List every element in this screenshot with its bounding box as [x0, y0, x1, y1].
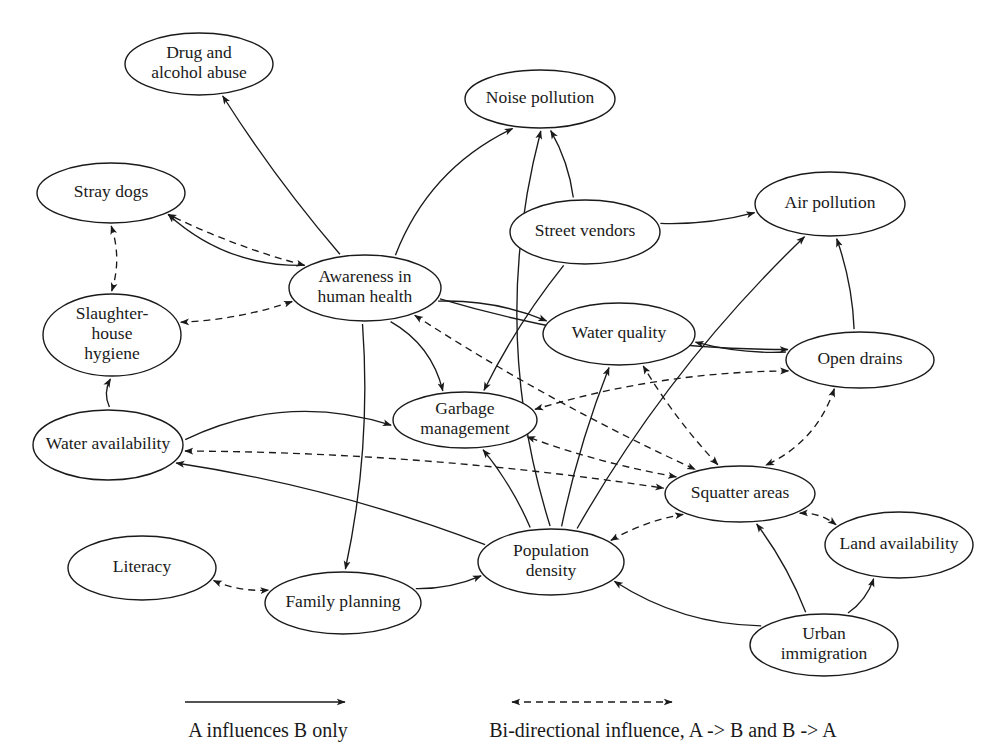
- edge-vendors-to-air: [660, 213, 754, 224]
- node-shape-water_q: [543, 303, 695, 365]
- node-water_a[interactable]: Water availability: [33, 410, 183, 480]
- node-urban[interactable]: Urbanimmigration: [750, 614, 898, 676]
- edge-awareness-to-drug: [223, 96, 340, 254]
- node-family[interactable]: Family planning: [265, 572, 421, 634]
- edge-family-to-popdens: [416, 576, 481, 589]
- edge-awareness-to-stray: [168, 214, 304, 265]
- edge-urban-to-popdens: [614, 581, 761, 626]
- node-stray[interactable]: Stray dogs: [37, 163, 185, 223]
- node-shape-urban: [750, 614, 898, 676]
- edge-squatter-to-water_q: [643, 366, 718, 465]
- edge-popdens-to-garbage: [483, 450, 530, 528]
- node-shape-family: [265, 572, 421, 634]
- edge-water_a-to-garbage: [185, 411, 391, 439]
- node-shape-stray: [37, 163, 185, 223]
- edge-squatter-to-land: [800, 513, 836, 525]
- node-noise[interactable]: Noise pollution: [465, 70, 615, 128]
- edge-urban-to-land: [848, 579, 874, 613]
- node-shape-drains: [786, 332, 934, 388]
- legend-uni-label: A influences B only: [188, 719, 347, 742]
- edge-urban-to-squatter: [757, 524, 806, 612]
- node-water_q[interactable]: Water quality: [543, 303, 695, 365]
- edge-popdens-to-squatter: [611, 514, 683, 540]
- node-shape-noise: [465, 70, 615, 128]
- edge-awareness-to-stray: [168, 214, 304, 265]
- node-popdens[interactable]: Populationdensity: [478, 529, 624, 595]
- edge-stray-to-slaughter: [111, 226, 117, 291]
- node-literacy[interactable]: Literacy: [68, 536, 216, 600]
- edge-awareness-to-family: [345, 324, 364, 569]
- node-shape-popdens: [478, 529, 624, 595]
- node-vendors[interactable]: Street vendors: [510, 200, 660, 264]
- diagram-canvas: Drug andalcohol abuseNoise pollutionStra…: [0, 0, 1001, 742]
- edge-water_a-to-slaughter: [106, 379, 110, 407]
- node-drains[interactable]: Open drains: [786, 332, 934, 388]
- node-shape-vendors: [510, 200, 660, 264]
- node-squatter[interactable]: Squatter areas: [665, 466, 815, 522]
- node-air[interactable]: Air pollution: [755, 172, 905, 236]
- edge-awareness-to-slaughter: [181, 302, 292, 323]
- node-shape-air: [755, 172, 905, 236]
- node-shape-slaughter: [43, 294, 181, 376]
- influence-diagram: Drug andalcohol abuseNoise pollutionStra…: [0, 0, 1001, 742]
- edge-drains-to-squatter: [766, 389, 835, 465]
- edge-popdens-to-water_a: [176, 463, 485, 545]
- edge-squatter-to-garbage: [527, 437, 676, 477]
- node-garbage[interactable]: Garbagemanagement: [393, 392, 537, 448]
- node-shape-squatter: [665, 466, 815, 522]
- node-shape-garbage: [393, 392, 537, 448]
- edge-vendors-to-noise: [551, 131, 574, 198]
- edge-drains-to-air: [837, 239, 854, 329]
- node-shape-land: [825, 512, 973, 578]
- node-land[interactable]: Land availability: [825, 512, 973, 578]
- edge-popdens-to-water_q: [562, 368, 609, 527]
- node-shape-water_a: [33, 410, 183, 480]
- edge-literacy-to-family: [214, 581, 269, 591]
- node-shape-drug: [125, 33, 273, 95]
- edge-awareness-to-garbage: [391, 322, 443, 391]
- node-shape-awareness: [289, 255, 441, 321]
- legend-bi-label: Bi-directional influence, A -> B and B -…: [489, 719, 837, 741]
- edge-awareness-to-noise: [395, 129, 512, 256]
- edge-drains-to-garbage: [535, 371, 788, 410]
- node-drug[interactable]: Drug andalcohol abuse: [125, 33, 273, 95]
- node-awareness[interactable]: Awareness inhuman health: [289, 255, 441, 321]
- node-slaughter[interactable]: Slaughter-househygiene: [43, 294, 181, 376]
- edge-water_a-to-squatter: [185, 451, 664, 488]
- node-shape-literacy: [68, 536, 216, 600]
